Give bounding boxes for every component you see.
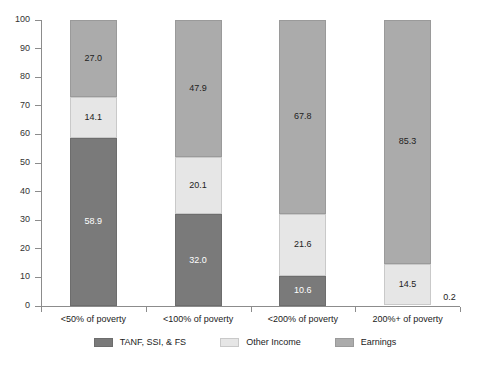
x-axis-tick [460,307,461,312]
bar-segment-value-label: 14.1 [85,113,103,122]
stacked-bar-chart: 0102030405060708090100 58.914.127.032.02… [0,0,490,369]
bar-3[interactable]: 10.621.667.8 [279,20,326,306]
bar-segment-1-2[interactable]: 14.1 [70,97,117,137]
bar-segment-value-label: 21.6 [294,240,312,249]
y-axis-tick-label: 60 [6,128,30,138]
y-axis-tick-label: 30 [6,214,30,224]
legend-label: TANF, SSI, & FS [120,337,186,347]
x-axis-category-label: 200%+ of poverty [355,314,460,324]
bar-segment-value-label: 67.8 [294,112,312,121]
x-axis-category-label: <50% of poverty [41,314,146,324]
x-axis-tick [41,307,42,312]
y-axis-tick-label: 100 [6,14,30,24]
bar-segment-2-2[interactable]: 20.1 [175,157,222,214]
bar-segment-value-label: 20.1 [189,181,207,190]
legend-swatch-icon [220,338,239,347]
legend-item-2[interactable]: Other Income [220,337,301,347]
bar-4[interactable]: 14.585.3 [384,20,431,306]
bar-segment-2-3[interactable]: 47.9 [175,20,222,157]
x-axis-tick [355,307,356,312]
bar-segment-value-label: 58.9 [85,217,103,226]
bar-segment-value-label: 10.6 [294,286,312,295]
y-axis-tick-label: 20 [6,243,30,253]
bar-segment-3-2[interactable]: 21.6 [279,214,326,276]
y-axis-tick-label: 50 [6,157,30,167]
y-axis-tick-label: 10 [6,271,30,281]
bar-segment-value-label: 32.0 [189,256,207,265]
bar-segment-3-3[interactable]: 67.8 [279,20,326,214]
bar-2[interactable]: 32.020.147.9 [175,20,222,306]
bar-segment-value-label: 47.9 [189,84,207,93]
bar-segment-value-label: 27.0 [85,54,103,63]
legend-item-3[interactable]: Earnings [335,337,397,347]
bar-segment-value-label: 14.5 [399,280,417,289]
x-axis-category-label: <200% of poverty [251,314,356,324]
y-axis-tick-label: 40 [6,186,30,196]
bar-segment-label-outside: 0.2 [443,292,456,302]
legend-label: Earnings [361,337,397,347]
bar-segment-1-1[interactable]: 58.9 [70,138,117,306]
chart-legend: TANF, SSI, & FSOther IncomeEarnings [0,337,490,347]
bar-segment-2-1[interactable]: 32.0 [175,214,222,306]
y-axis-tick-label: 70 [6,100,30,110]
x-axis-tick [251,307,252,312]
x-axis-tick [146,307,147,312]
bar-segment-4-3[interactable]: 85.3 [384,20,431,264]
legend-swatch-icon [335,338,354,347]
bar-segment-4-2[interactable]: 14.5 [384,264,431,305]
y-axis-tick-label: 80 [6,71,30,81]
legend-item-1[interactable]: TANF, SSI, & FS [94,337,186,347]
bar-segment-3-1[interactable]: 10.6 [279,276,326,306]
bar-1[interactable]: 58.914.127.0 [70,20,117,306]
x-axis-category-label: <100% of poverty [146,314,251,324]
bar-segment-value-label: 85.3 [399,137,417,146]
legend-label: Other Income [246,337,301,347]
plot-area: 58.914.127.032.020.147.910.621.667.814.5… [41,20,460,306]
y-axis-tick-label: 90 [6,43,30,53]
legend-swatch-icon [94,338,113,347]
bar-segment-1-3[interactable]: 27.0 [70,20,117,97]
y-axis-tick-label: 0 [6,300,30,310]
